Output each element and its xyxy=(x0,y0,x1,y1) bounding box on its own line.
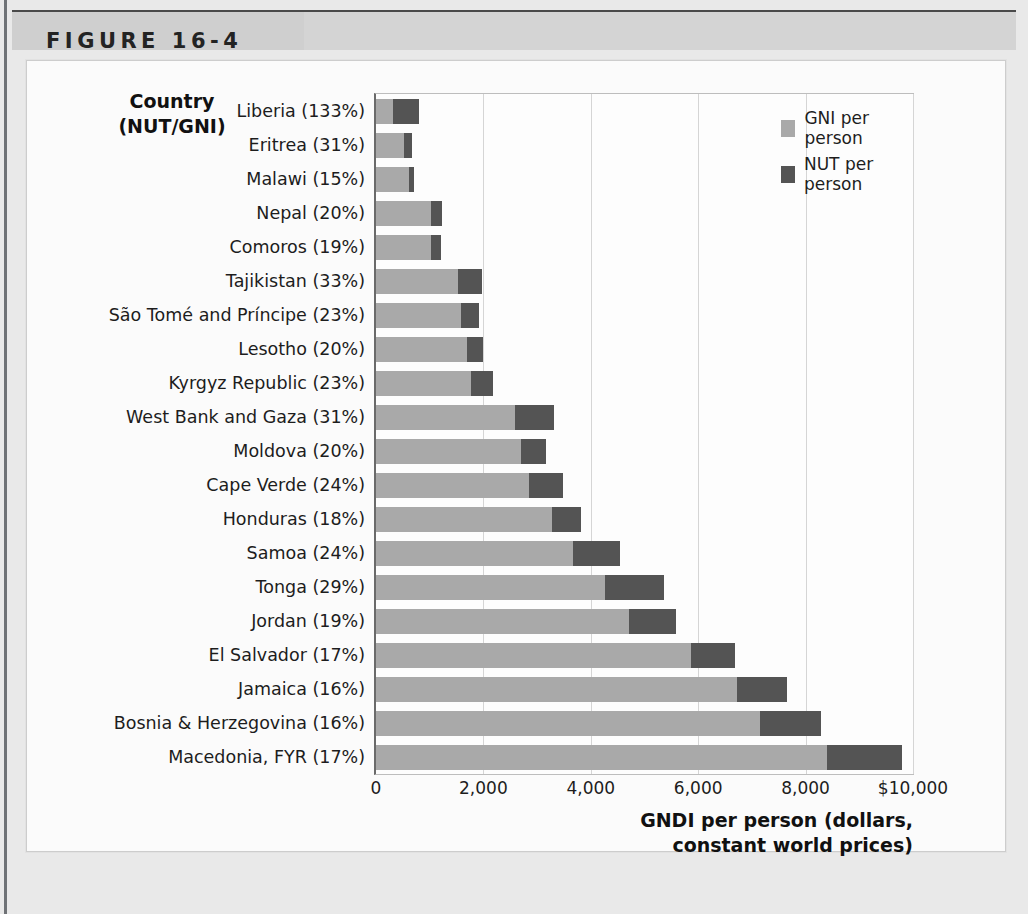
stacked-bar xyxy=(376,337,913,362)
stacked-bar xyxy=(376,575,913,600)
y-axis-tick-label: Lesotho (20%) xyxy=(238,332,365,366)
bar-row: Macedonia, FYR (17%) xyxy=(376,740,913,774)
bar-segment-nut xyxy=(521,439,546,464)
y-axis-tick-label: São Tomé and Príncipe (23%) xyxy=(109,298,365,332)
y-axis-tick-label: Malawi (15%) xyxy=(246,162,365,196)
bar-segment-gni xyxy=(376,609,629,634)
bar-segment-nut xyxy=(573,541,621,566)
legend-item-gni: GNI per person xyxy=(781,108,913,148)
y-axis-tick-label: Kyrgyz Republic (23%) xyxy=(168,366,365,400)
stacked-bar xyxy=(376,677,913,702)
bar-segment-gni xyxy=(376,711,760,736)
bar-row: Jamaica (16%) xyxy=(376,672,913,706)
bar-segment-nut xyxy=(515,405,554,430)
bar-segment-nut xyxy=(458,269,482,294)
stacked-bar xyxy=(376,439,913,464)
bar-segment-gni xyxy=(376,269,458,294)
legend-label-nut: NUT per person xyxy=(804,154,913,194)
gridline xyxy=(913,94,914,774)
bar-segment-nut xyxy=(552,507,580,532)
stacked-bar xyxy=(376,609,913,634)
legend-swatch-nut-icon xyxy=(781,166,795,183)
stacked-bar xyxy=(376,405,913,430)
x-axis-tick-label: 4,000 xyxy=(566,778,615,798)
x-axis-tick-label: 0 xyxy=(371,778,382,798)
bar-segment-gni xyxy=(376,473,529,498)
y-axis-tick-label: Nepal (20%) xyxy=(256,196,365,230)
legend-item-nut: NUT per person xyxy=(781,154,913,194)
bar-row: Tajikistan (33%) xyxy=(376,264,913,298)
bar-segment-nut xyxy=(404,133,412,158)
y-axis-tick-label: Comoros (19%) xyxy=(230,230,365,264)
bar-row: Moldova (20%) xyxy=(376,434,913,468)
bar-segment-nut xyxy=(467,337,483,362)
y-axis-tick-label: Cape Verde (24%) xyxy=(206,468,365,502)
bar-row: Jordan (19%) xyxy=(376,604,913,638)
bar-row: Comoros (19%) xyxy=(376,230,913,264)
bar-segment-gni xyxy=(376,303,461,328)
y-axis-tick-label: Liberia (133%) xyxy=(236,94,365,128)
x-axis-tick-label: 2,000 xyxy=(459,778,508,798)
figure-header-band: FIGURE 16-4 xyxy=(12,10,1016,50)
bar-segment-nut xyxy=(529,473,563,498)
bar-segment-gni xyxy=(376,99,393,124)
bar-row: Kyrgyz Republic (23%) xyxy=(376,366,913,400)
bar-segment-nut xyxy=(409,167,414,192)
bar-row: São Tomé and Príncipe (23%) xyxy=(376,298,913,332)
bar-segment-gni xyxy=(376,541,573,566)
x-axis-title-line1: GNDI per person (dollars, xyxy=(376,808,913,833)
bar-segment-nut xyxy=(827,745,902,770)
bar-segment-gni xyxy=(376,337,467,362)
y-axis-title: Country (NUT/GNI) xyxy=(87,89,257,138)
bar-segment-nut xyxy=(393,99,419,124)
bar-segment-gni xyxy=(376,201,431,226)
stacked-bar xyxy=(376,303,913,328)
bar-segment-nut xyxy=(629,609,676,634)
bar-segment-gni xyxy=(376,439,521,464)
x-axis-title: GNDI per person (dollars, constant world… xyxy=(376,808,913,857)
y-axis-tick-label: Samoa (24%) xyxy=(247,536,365,570)
stacked-bar xyxy=(376,235,913,260)
stacked-bar xyxy=(376,371,913,396)
bar-segment-nut xyxy=(431,235,441,260)
bar-row: El Salvador (17%) xyxy=(376,638,913,672)
bar-row: Honduras (18%) xyxy=(376,502,913,536)
bar-segment-gni xyxy=(376,405,515,430)
bar-segment-nut xyxy=(605,575,664,600)
chart-card: Country (NUT/GNI) Liberia (133%)Eritrea … xyxy=(26,60,1006,852)
bar-segment-gni xyxy=(376,507,552,532)
bar-row: Nepal (20%) xyxy=(376,196,913,230)
figure-number-label: FIGURE 16-4 xyxy=(46,29,242,53)
bar-segment-gni xyxy=(376,677,737,702)
bar-row: West Bank and Gaza (31%) xyxy=(376,400,913,434)
x-axis-tick-label: 8,000 xyxy=(781,778,830,798)
x-axis-tick-label: $10,000 xyxy=(878,778,948,798)
bar-segment-gni xyxy=(376,643,691,668)
y-axis-tick-label: Eritrea (31%) xyxy=(249,128,365,162)
legend-label-gni: GNI per person xyxy=(804,108,913,148)
plot-axes: Liberia (133%)Eritrea (31%)Malawi (15%)N… xyxy=(374,93,914,775)
y-axis-tick-label: Bosnia & Herzegovina (16%) xyxy=(114,706,365,740)
y-axis-tick-label: Moldova (20%) xyxy=(233,434,365,468)
y-axis-tick-label: Jordan (19%) xyxy=(251,604,365,638)
left-edge-rule xyxy=(4,0,7,914)
y-axis-tick-label: Macedonia, FYR (17%) xyxy=(168,740,365,774)
stacked-bar xyxy=(376,745,913,770)
y-axis-tick-label: West Bank and Gaza (31%) xyxy=(126,400,365,434)
stacked-bar xyxy=(376,507,913,532)
bar-segment-gni xyxy=(376,575,605,600)
y-axis-tick-label: Jamaica (16%) xyxy=(238,672,365,706)
bar-row: Cape Verde (24%) xyxy=(376,468,913,502)
bar-row: Samoa (24%) xyxy=(376,536,913,570)
bar-segment-nut xyxy=(461,303,479,328)
stacked-bar xyxy=(376,269,913,294)
y-axis-tick-label: El Salvador (17%) xyxy=(209,638,365,672)
chart-area: Country (NUT/GNI) Liberia (133%)Eritrea … xyxy=(27,61,1005,851)
figure-root: FIGURE 16-4 Country (NUT/GNI) Liberia (1… xyxy=(0,0,1028,914)
stacked-bar xyxy=(376,541,913,566)
y-axis-tick-label: Tajikistan (33%) xyxy=(226,264,365,298)
bar-segment-gni xyxy=(376,167,409,192)
y-axis-tick-label: Honduras (18%) xyxy=(223,502,365,536)
bar-row: Tonga (29%) xyxy=(376,570,913,604)
bar-segment-nut xyxy=(431,201,442,226)
